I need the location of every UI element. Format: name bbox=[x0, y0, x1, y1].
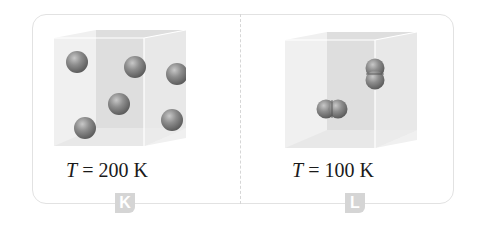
caption-l: T = 100 K bbox=[292, 159, 374, 182]
atom-sphere bbox=[108, 93, 130, 115]
temperature-symbol-k: T bbox=[66, 159, 77, 181]
atom-sphere bbox=[74, 117, 96, 139]
temperature-value-l: = 100 K bbox=[303, 159, 374, 181]
gas-container-l-illustration bbox=[285, 30, 417, 148]
temperature-symbol-l: T bbox=[292, 159, 303, 181]
panel-label-badge-l: L bbox=[345, 193, 365, 213]
diatomic-molecule bbox=[366, 59, 385, 90]
diatomic-molecule bbox=[317, 100, 348, 119]
container-box-k bbox=[54, 28, 186, 146]
atom-sphere bbox=[66, 51, 88, 73]
atom-sphere bbox=[124, 56, 146, 78]
panel-divider bbox=[240, 14, 241, 204]
gas-container-k-illustration bbox=[54, 28, 186, 146]
container-box-l bbox=[285, 30, 417, 148]
temperature-value-k: = 200 K bbox=[77, 159, 148, 181]
atom-sphere bbox=[161, 109, 183, 131]
caption-k: T = 200 K bbox=[66, 159, 148, 182]
panel-label-badge-k: K bbox=[115, 193, 135, 213]
